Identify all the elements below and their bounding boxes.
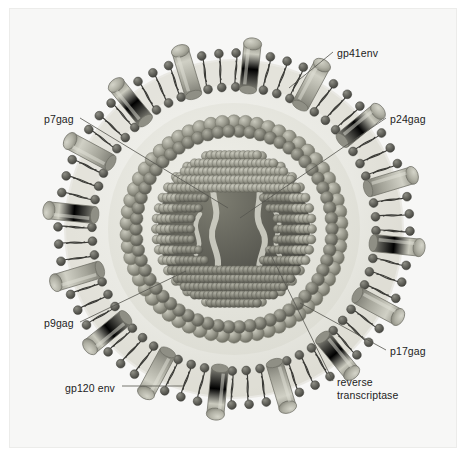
label-revtrans: reversetranscriptase (337, 376, 398, 402)
lipid-head (94, 182, 103, 191)
lipid-head (54, 223, 63, 232)
hiv-virion-figure: gp41envp24gagp7gagp9gagp17gaggp120 envre… (0, 0, 468, 458)
lipid-head (138, 333, 147, 342)
lipid-head (197, 52, 206, 61)
lipid-head (403, 192, 412, 201)
label-line: transcriptase (337, 389, 398, 402)
capsid-bead-p24 (187, 214, 195, 222)
lipid-head (107, 99, 116, 108)
lipid-head (245, 400, 254, 409)
lipid-head (310, 108, 319, 117)
lipid-head (116, 359, 125, 368)
label-gp41env: gp41env (337, 47, 378, 60)
lipid-head (369, 254, 378, 263)
lipid-head (164, 99, 173, 108)
capsid-bead-p24 (292, 266, 301, 275)
lipid-head (343, 90, 352, 99)
lipid-head (406, 227, 415, 236)
lipid-head (95, 111, 104, 120)
capsid-bead-p24 (253, 151, 262, 160)
lipid-head (177, 392, 186, 401)
lipid-head (130, 370, 139, 379)
capsid-bead-p24 (301, 193, 310, 202)
capsid-bead-p24 (286, 175, 295, 184)
capsid-bead-p24 (279, 167, 288, 176)
lipid-head (90, 251, 99, 260)
lipid-head (356, 102, 365, 111)
lipid-head (283, 57, 292, 66)
capsid-bead-p24 (307, 224, 316, 233)
lipid-head (68, 155, 77, 164)
lipid-head (88, 223, 97, 232)
capsid-bead-p24 (307, 214, 316, 223)
lipid-head (104, 348, 113, 357)
lipid-head (152, 106, 161, 115)
lipid-head (54, 240, 63, 249)
lipid-head (272, 89, 281, 98)
label-line: reverse (337, 376, 398, 389)
capsid-bead-p24 (305, 245, 314, 254)
lipid-head (307, 344, 316, 353)
lipid-head (391, 294, 400, 303)
lipid-head (369, 199, 378, 208)
lipid-head (215, 49, 224, 58)
label-line: gp120 env (65, 382, 115, 395)
lipid-head (160, 386, 169, 395)
lipid-head (187, 360, 196, 369)
lipid-head (91, 195, 100, 204)
lipid-head (149, 68, 158, 77)
lipid-head (84, 125, 93, 134)
lipid-head (204, 85, 213, 94)
lipid-head (193, 397, 202, 406)
capsid-bead-p24 (200, 256, 208, 264)
lipid-head (256, 364, 265, 373)
label-p9gag: p9gag (44, 317, 74, 330)
lipid-head (347, 305, 356, 314)
lipid-head (228, 367, 237, 376)
lipid-head (231, 83, 240, 92)
capsid-core-p24 (151, 151, 316, 308)
lipid-head (371, 212, 380, 221)
lipid-head (200, 364, 209, 373)
label-p7gag: p7gag (44, 113, 74, 126)
lipid-head (121, 133, 130, 142)
lipid-head (259, 86, 268, 95)
label-line: p24gag (390, 113, 426, 126)
lipid-head (377, 129, 386, 138)
lipid-head (82, 321, 91, 330)
lipid-head (375, 324, 384, 333)
lipid-head (397, 278, 406, 287)
lipid-head (57, 257, 66, 266)
lipid-head (405, 210, 414, 219)
lipid-head (329, 79, 338, 88)
lipid-head (262, 398, 271, 407)
label-p24gag: p24gag (390, 113, 426, 126)
lipid-head (149, 342, 158, 351)
lipid-head (311, 381, 320, 390)
lipid-head (113, 144, 122, 153)
capsid-bead-p24 (269, 159, 278, 168)
lipid-head (402, 261, 411, 270)
lipid-head (242, 366, 251, 375)
lipid-head (356, 159, 365, 168)
lipid-head (295, 351, 304, 360)
lipid-head (88, 237, 97, 246)
label-p17gag: p17gag (390, 345, 426, 358)
lipid-head (295, 388, 304, 397)
lipid-head (164, 61, 173, 70)
lipid-head (299, 63, 308, 72)
lipid-head (228, 401, 237, 410)
lipid-head (104, 290, 113, 299)
capsid-bead-p24 (292, 183, 301, 192)
capsid-bead-p24 (307, 235, 316, 244)
lipid-head (62, 172, 71, 181)
capsid-bead-p24 (187, 235, 195, 243)
capsid-bead-p24 (200, 194, 208, 202)
capsid-bead-p24 (286, 274, 295, 283)
lipid-head (266, 52, 275, 61)
lipid-head (73, 306, 82, 315)
capsid-bead-p24 (194, 246, 202, 254)
lipid-head (393, 159, 402, 168)
lipid-head (66, 290, 75, 299)
matrix-bead-p17 (222, 125, 235, 138)
